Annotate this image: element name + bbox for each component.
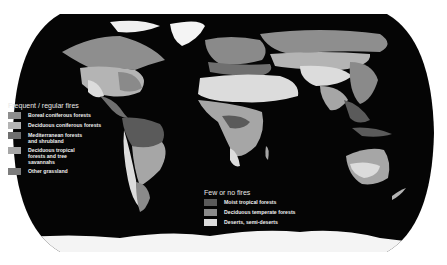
legend-item-moist-tropical: Moist tropical forests — [204, 199, 334, 206]
legend-label: Deserts, semi-deserts — [224, 219, 278, 225]
legend-label: Deciduous coniferous forests — [28, 122, 101, 128]
swatch-deserts — [204, 219, 217, 226]
legend-label: Deciduous temperate forests — [224, 209, 296, 215]
legend-label: Moist tropical forests — [224, 199, 276, 205]
legend-frequent-title: Frequent / regular fires — [8, 102, 128, 109]
swatch-moist-tropical — [204, 199, 217, 206]
legend-item-deserts: Deserts, semi-deserts — [204, 219, 334, 226]
legend-item-mediterranean: Mediterranean forests and shrubland — [8, 132, 128, 144]
sahara-arabia — [198, 74, 298, 102]
legend-few-fires: Few or no fires Moist tropical forests D… — [204, 189, 334, 229]
swatch-boreal — [8, 112, 21, 119]
legend-label: Other grassland — [28, 168, 68, 174]
swatch-mediterranean — [8, 132, 21, 139]
legend-item-deciduous-tropical: Deciduous tropical forests and tree sava… — [8, 147, 128, 165]
legend-item-other-grassland: Other grassland — [8, 168, 128, 175]
legend-frequent-fires: Frequent / regular fires Boreal conifero… — [8, 102, 128, 178]
asia-boreal — [260, 30, 388, 54]
legend-label: Deciduous tropical forests and tree sava… — [28, 147, 75, 165]
legend-few-title: Few or no fires — [204, 189, 334, 196]
swatch-deciduous-coniferous — [8, 122, 21, 129]
swatch-other-grassland — [8, 168, 21, 175]
legend-item-deciduous-coniferous: Deciduous coniferous forests — [8, 122, 128, 129]
legend-item-deciduous-temperate: Deciduous temperate forests — [204, 209, 334, 216]
legend-label: Boreal coniferous forests — [28, 112, 91, 118]
legend-label: Mediterranean forests and shrubland — [28, 132, 82, 144]
swatch-deciduous-temperate — [204, 209, 217, 216]
swatch-deciduous-tropical — [8, 147, 21, 154]
legend-item-boreal: Boreal coniferous forests — [8, 112, 128, 119]
